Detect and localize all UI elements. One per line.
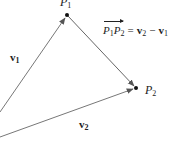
p1-subscript: 1	[67, 1, 71, 10]
eq-p1-letter: P	[103, 24, 110, 36]
v1-subscript: 1	[16, 56, 20, 65]
point-p1-label: P1	[60, 0, 71, 10]
eq-p2-subscript: 2	[120, 29, 124, 38]
point-p1-dot	[65, 13, 69, 17]
vector-v1-label: v1	[10, 52, 20, 65]
vector-p1p2-notation: P1P2	[103, 25, 124, 38]
difference-equation: P1P2=v2−v1	[103, 25, 168, 38]
eq-v2-subscript: 2	[142, 29, 146, 38]
v2-subscript: 2	[85, 123, 89, 132]
equals-sign: =	[127, 24, 133, 36]
vector-v1-arrow	[0, 18, 65, 112]
minus-sign: −	[149, 24, 155, 36]
eq-v1-subscript: 1	[164, 29, 168, 38]
vector-v2-label: v2	[79, 119, 89, 132]
p2-subscript: 2	[152, 89, 156, 98]
point-p2-label: P2	[145, 84, 156, 98]
vector-v2-arrow	[0, 89, 133, 137]
point-p2-dot	[134, 86, 138, 90]
